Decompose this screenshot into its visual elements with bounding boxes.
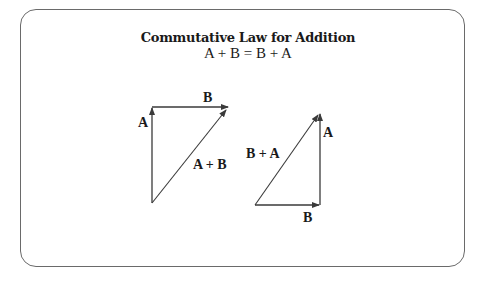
left-triangle: A B A + B xyxy=(138,90,228,203)
label-a: A xyxy=(323,125,334,140)
label-b: B xyxy=(303,210,312,225)
label-a: A xyxy=(138,115,149,130)
right-triangle: A B B + A xyxy=(246,114,334,225)
label-b-plus-a: B + A xyxy=(246,146,281,161)
label-a-plus-b: A + B xyxy=(193,157,227,172)
label-b: B xyxy=(203,90,212,105)
vector-diagram: A B A + B A B B + A xyxy=(0,0,496,283)
